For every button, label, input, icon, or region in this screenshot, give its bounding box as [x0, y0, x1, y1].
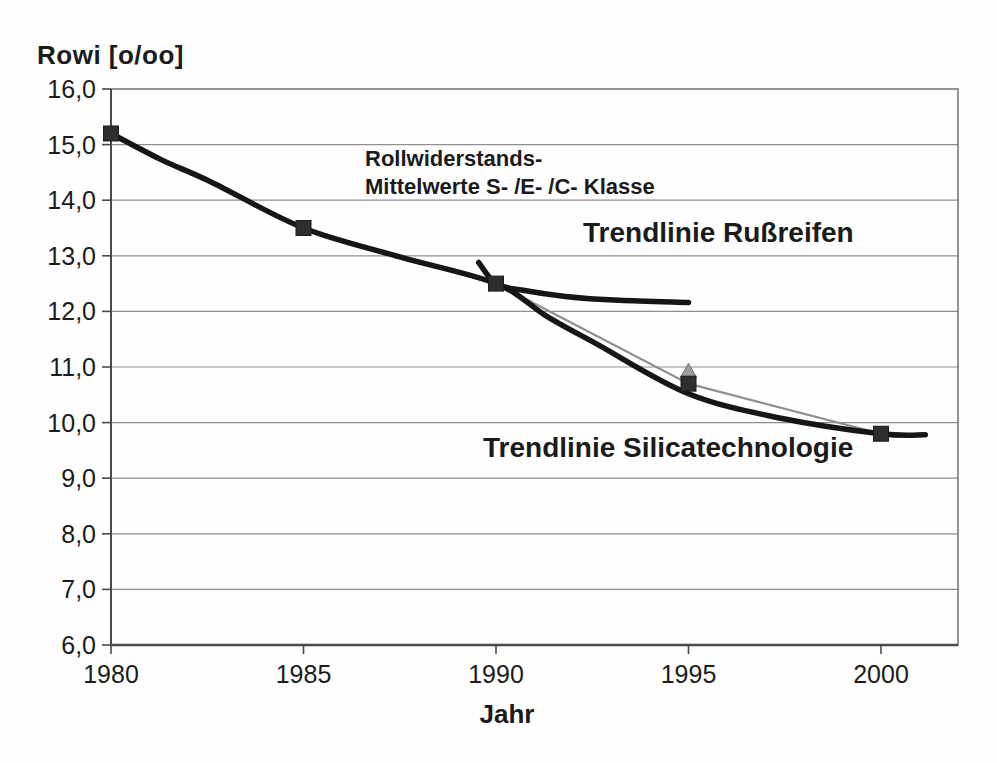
y-tick-label: 13,0	[47, 242, 96, 270]
y-tick-label: 9,0	[61, 464, 96, 492]
data-point-marker	[489, 276, 504, 291]
chart-canvas: 16,015,014,013,012,011,010,09,08,07,06,0…	[0, 0, 997, 763]
x-axis-title: Jahr	[432, 699, 582, 730]
y-tick-label: 10,0	[47, 409, 96, 437]
series-annotation-line-2: Mittelwerte S- /E- /C- Klasse	[365, 173, 655, 201]
chart-container: 16,015,014,013,012,011,010,09,08,07,06,0…	[0, 0, 997, 763]
data-point-marker	[874, 426, 889, 441]
y-tick-label: 12,0	[47, 297, 96, 325]
data-point-marker	[104, 126, 119, 141]
trend-label-silicatechnologie: Trendlinie Silicatechnologie	[483, 432, 853, 464]
y-tick-label: 8,0	[61, 520, 96, 548]
x-tick-label: 1985	[276, 660, 332, 688]
series-annotation-line-1: Rollwiderstands-	[365, 145, 655, 173]
y-tick-label: 6,0	[61, 631, 96, 659]
y-tick-label: 14,0	[47, 186, 96, 214]
data-point-marker	[296, 221, 311, 236]
x-tick-label: 1995	[661, 660, 717, 688]
y-tick-label: 15,0	[47, 131, 96, 159]
x-tick-label: 1980	[83, 660, 139, 688]
x-tick-label: 2000	[853, 660, 909, 688]
x-tick-label: 1990	[468, 660, 524, 688]
series-annotation: Rollwiderstands- Mittelwerte S- /E- /C- …	[365, 145, 655, 201]
data-point-marker	[681, 376, 696, 391]
y-tick-label: 16,0	[47, 75, 96, 103]
trend-line	[479, 263, 689, 303]
trend-label-russreifen: Trendlinie Rußreifen	[583, 217, 854, 249]
y-tick-label: 11,0	[49, 353, 96, 381]
y-axis-title: Rowi [o/oo]	[37, 40, 184, 71]
y-tick-label: 7,0	[61, 575, 96, 603]
triangle-marker	[681, 363, 697, 377]
